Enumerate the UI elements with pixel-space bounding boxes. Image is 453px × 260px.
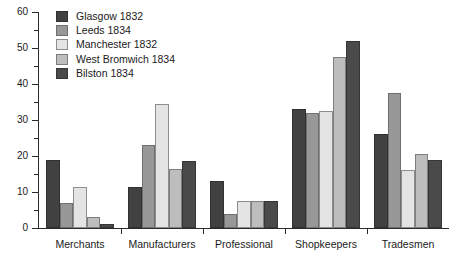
bar: [87, 217, 101, 228]
legend-swatch-icon: [56, 25, 68, 36]
y-axis-tick-label: 40: [0, 79, 28, 89]
y-axis-tick-major: [32, 84, 38, 85]
y-axis-tick-major: [32, 12, 38, 13]
bar: [346, 41, 360, 228]
y-axis-tick-label: 20: [0, 151, 28, 161]
y-axis-tick-major: [32, 120, 38, 121]
y-axis-tick-label: 30: [0, 115, 28, 125]
legend-swatch-icon: [56, 54, 68, 65]
y-axis-tick-major: [32, 48, 38, 49]
y-axis-tick-label: 60: [0, 7, 28, 17]
bar: [319, 111, 333, 228]
legend-label: Leeds 1834: [76, 25, 131, 36]
x-axis-label-tradesmen: Tradesmen: [367, 238, 449, 250]
legend-swatch-icon: [56, 39, 68, 50]
bar-group: [292, 12, 360, 228]
bar: [60, 203, 74, 228]
y-axis-tick-major: [32, 156, 38, 157]
bar: [182, 161, 196, 228]
bar: [224, 214, 238, 228]
y-axis-tick-minor: [34, 210, 38, 211]
x-axis-tick: [121, 228, 122, 234]
y-axis-tick-minor: [34, 102, 38, 103]
y-axis-tick-label: 50: [0, 43, 28, 53]
legend-label: Bilston 1834: [76, 68, 134, 79]
bar-group: [374, 12, 442, 228]
bar: [401, 170, 415, 228]
x-axis-line: [38, 228, 449, 229]
x-axis-tick: [285, 228, 286, 234]
bar: [306, 113, 320, 228]
y-axis-tick-minor: [34, 138, 38, 139]
bar: [333, 57, 347, 228]
x-axis-label-shopkeepers: Shopkeepers: [285, 238, 367, 250]
bar: [73, 187, 87, 228]
bar: [428, 160, 442, 228]
bar: [128, 187, 142, 228]
x-axis-tick: [203, 228, 204, 234]
bar: [251, 201, 265, 228]
bar: [46, 160, 60, 228]
bar: [264, 201, 278, 228]
legend-swatch-icon: [56, 11, 68, 22]
y-axis-tick-minor: [34, 66, 38, 67]
bar: [142, 145, 156, 228]
bar-group: [210, 12, 278, 228]
bar: [374, 134, 388, 228]
legend-item: Bilston 1834: [56, 67, 175, 81]
legend-item: West Bromwich 1834: [56, 52, 175, 66]
bar: [155, 104, 169, 228]
y-axis-tick-minor: [34, 174, 38, 175]
y-axis-tick-major: [32, 192, 38, 193]
legend-label: Glasgow 1832: [76, 11, 143, 22]
bar: [292, 109, 306, 228]
legend-item: Glasgow 1832: [56, 9, 175, 23]
x-axis-label-professional: Professional: [203, 238, 285, 250]
legend-swatch-icon: [56, 68, 68, 79]
legend-item: Manchester 1832: [56, 38, 175, 52]
y-axis-tick-label: 0: [0, 223, 28, 233]
legend-label: West Bromwich 1834: [76, 54, 175, 65]
x-axis-label-merchants: Merchants: [39, 238, 121, 250]
legend-label: Manchester 1832: [76, 39, 157, 50]
bar: [210, 181, 224, 228]
x-axis-tick: [367, 228, 368, 234]
bar: [169, 169, 183, 228]
y-axis-tick-minor: [34, 30, 38, 31]
x-axis-label-manufacturers: Manufacturers: [121, 238, 203, 250]
bar: [415, 154, 429, 228]
bar-chart: 0102030405060 MerchantsManufacturersProf…: [0, 0, 453, 260]
bar: [237, 201, 251, 228]
y-axis-tick-label: 10: [0, 187, 28, 197]
bar: [388, 93, 402, 228]
legend: Glasgow 1832Leeds 1834Manchester 1832Wes…: [56, 9, 175, 81]
legend-item: Leeds 1834: [56, 23, 175, 37]
